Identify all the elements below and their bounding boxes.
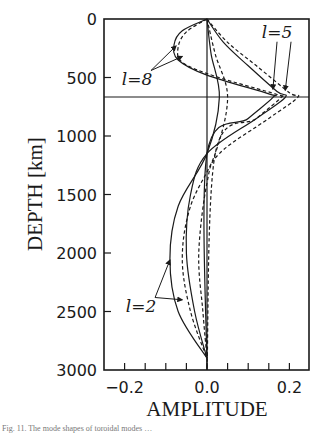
y-axis-ticks: 050010001500200025003000 <box>56 10 111 380</box>
x-tick-label: 0.2 <box>277 378 302 397</box>
figure-caption: Fig. 11. The mode shapes of toroidal mod… <box>2 424 321 433</box>
y-tick-label: 2500 <box>56 303 97 322</box>
y-axis-title: DEPTH [km] <box>23 137 47 251</box>
annotation-label: l=5 <box>262 22 293 42</box>
x-axis-ticks: −0.20.00.2 <box>105 363 302 397</box>
depth-amplitude-chart: 050010001500200025003000 −0.20.00.2 l=8l… <box>0 0 321 424</box>
annotation-arrow <box>151 56 182 70</box>
y-tick-label: 500 <box>66 69 97 88</box>
annotation-label: l=8 <box>122 69 153 89</box>
mode-curve-l-8-dashed <box>178 19 285 370</box>
mode-curve-l-8-solid <box>174 19 277 370</box>
y-tick-label: 1500 <box>56 186 97 205</box>
annotation-arrow <box>155 298 182 300</box>
annotation-label: l=2 <box>126 296 157 316</box>
annotation-arrow <box>151 46 176 71</box>
mode-curve-l-5-dashed <box>199 19 299 358</box>
annotation-arrow <box>155 260 170 297</box>
y-tick-label: 1000 <box>56 127 97 146</box>
annotation-arrow <box>273 42 277 89</box>
x-tick-label: 0.0 <box>194 378 219 397</box>
x-tick-label: −0.2 <box>105 378 144 397</box>
y-tick-label: 3000 <box>56 361 97 380</box>
annotation-arrow <box>285 42 291 91</box>
x-axis-title: AMPLITUDE <box>146 397 267 421</box>
mode-curve-l-5-solid <box>186 19 286 358</box>
y-tick-label: 2000 <box>56 244 97 263</box>
mode-curves <box>170 19 299 370</box>
y-tick-label: 0 <box>87 10 97 29</box>
